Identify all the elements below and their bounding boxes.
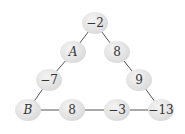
- node-right2: 9: [126, 69, 152, 91]
- node-bottom-right: −13: [148, 99, 174, 121]
- node-A: A: [60, 41, 86, 63]
- node-right1: 8: [104, 41, 130, 63]
- number-triangle-diagram: −2 A 8 −7 9 B 8 −3 −13: [0, 0, 185, 134]
- node-bottom2: −3: [104, 99, 130, 121]
- node-B: B: [15, 99, 41, 121]
- node-top: −2: [82, 12, 108, 34]
- node-left2: −7: [36, 69, 62, 91]
- node-bottom1: 8: [59, 99, 85, 121]
